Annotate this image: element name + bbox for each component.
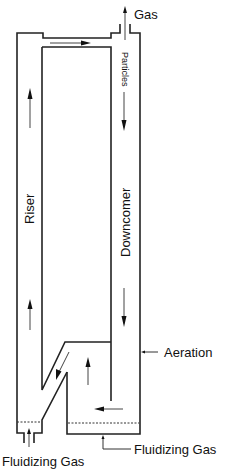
gas-outlet-label: Gas [134, 7, 158, 22]
aeration-pointer [141, 351, 158, 354]
particles-label: Particles [120, 52, 130, 87]
fluidizing-gas-inlet-arrow [27, 428, 31, 447]
riser-lower-arrow [28, 299, 33, 330]
fluidizing-gas-right-pointer [102, 435, 132, 449]
riser-inner-wall [42, 47, 111, 390]
downcomer-upper-arrow [122, 92, 127, 131]
riser-outer-wall [17, 24, 120, 443]
riser-upper-arrow [28, 88, 33, 128]
aeration-label: Aeration [164, 345, 212, 360]
top-connector-flow-arrow [50, 41, 91, 46]
loop-seal-left-arrow [94, 407, 123, 412]
riser-label: Riser [22, 193, 37, 224]
fluidizing-gas-right-label: Fluidizing Gas [134, 442, 217, 457]
downcomer-lower-arrow [122, 288, 127, 327]
downcomer-label: Downcomer [118, 187, 133, 257]
return-leg-lower-wall [34, 372, 67, 443]
fluidizing-gas-left-label: Fluidizing Gas [2, 454, 85, 469]
loop-seal-up-arrow [86, 357, 91, 385]
gas-outlet-arrow [123, 6, 127, 40]
cfb-diagram: Gas Particles Riser Downcomer Aeration F… [0, 0, 227, 473]
downcomer-inner-wall [42, 47, 111, 401]
